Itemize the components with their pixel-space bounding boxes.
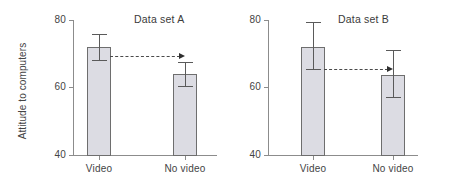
x-tick-mark-video-b — [313, 156, 314, 160]
error-bar-cap-lower-no-video-a — [178, 86, 193, 87]
error-bar-stem-video-b — [313, 22, 314, 69]
y-tick-label-40-a: 40 — [42, 150, 66, 160]
error-bar-cap-upper-video-a — [92, 34, 107, 35]
y-tick-mark-60-b — [264, 87, 268, 88]
error-bar-stem-video-a — [99, 34, 100, 61]
y-tick-mark-40-b — [264, 155, 268, 156]
error-bar-cap-upper-no-video-b — [386, 50, 401, 51]
y-tick-label-80-b: 80 — [237, 15, 261, 25]
y-tick-label-60-b: 60 — [237, 82, 261, 92]
y-tick-mark-80-a — [69, 20, 73, 21]
error-bar-cap-lower-video-a — [92, 60, 107, 61]
error-bar-cap-lower-no-video-b — [386, 97, 401, 98]
y-tick-label-60-a: 60 — [42, 82, 66, 92]
error-bar-cap-upper-video-b — [306, 22, 321, 23]
error-bar-stem-no-video-a — [185, 62, 186, 86]
comparison-arrow-head-b — [387, 66, 393, 72]
x-tick-label-no-video-b: No video — [360, 164, 426, 174]
figure-bar-charts: 80 60 40 Attitude to computers Data set … — [0, 0, 456, 186]
panel-label-b: Data set B — [338, 14, 389, 25]
y-tick-label-40-b: 40 — [237, 150, 261, 160]
plot-area-b: 80 60 40 Data set B Video — [228, 0, 456, 186]
x-tick-mark-no-video-a — [185, 156, 186, 160]
chart-panel-data-set-a: 80 60 40 Attitude to computers Data set … — [0, 0, 228, 186]
y-axis-line-a — [73, 20, 74, 156]
x-tick-label-video-b: Video — [283, 164, 343, 174]
y-axis-title-a: Attitude to computers — [18, 26, 28, 156]
y-tick-label-80-a: 80 — [42, 15, 66, 25]
x-tick-label-no-video-a: No video — [152, 164, 218, 174]
chart-panel-data-set-b: 80 60 40 Data set B Video — [228, 0, 456, 186]
error-bar-stem-no-video-b — [393, 50, 394, 97]
panel-label-a: Data set A — [134, 14, 184, 25]
x-tick-mark-video-a — [99, 156, 100, 160]
comparison-arrow-line-a — [110, 56, 180, 57]
y-tick-mark-60-a — [69, 87, 73, 88]
error-bar-cap-lower-video-b — [306, 69, 321, 70]
x-tick-label-video-a: Video — [69, 164, 129, 174]
x-tick-mark-no-video-b — [393, 156, 394, 160]
comparison-arrow-line-b — [324, 69, 388, 70]
y-tick-mark-40-a — [69, 155, 73, 156]
plot-area-a: 80 60 40 Attitude to computers Data set … — [0, 0, 228, 186]
y-tick-mark-80-b — [264, 20, 268, 21]
bar-video-a — [87, 47, 111, 156]
error-bar-cap-upper-no-video-a — [178, 62, 193, 63]
comparison-arrow-head-a — [179, 53, 185, 59]
y-axis-line-b — [268, 20, 269, 156]
